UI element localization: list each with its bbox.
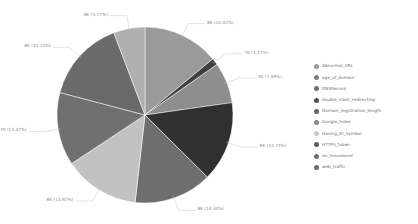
legend-item[interactable]: Google_Index (314, 117, 418, 128)
legend-item[interactable]: Domain_registration_length (314, 106, 418, 117)
leader-line (213, 54, 242, 63)
legend-item-label: Having_At_Symbol (322, 132, 362, 136)
legend-item[interactable]: on_mouseover (314, 151, 418, 162)
chart-legend: Abnormal_URLage_of_domainDNSRecorddouble… (314, 61, 418, 173)
legend-item-label: age_of_domain (322, 76, 354, 80)
legend-item[interactable]: double_slash_redirecting (314, 95, 418, 106)
legend-item-label: Domain_registration_length (322, 109, 381, 113)
legend-marker-icon (314, 131, 319, 136)
legend-item-label: on_mouseover (322, 154, 353, 158)
slice-value-label: 8K (15.15%) (0, 44, 51, 48)
pie-svg (0, 0, 310, 224)
legend-item-label: DNSRecord (322, 87, 346, 91)
slice-value-label: 7K (13.42%) (0, 128, 26, 132)
legend-item-label: web_traffic (322, 165, 346, 169)
legend-marker-icon (314, 142, 319, 147)
leader-line (226, 142, 258, 147)
legend-item[interactable]: Abnormal_URL (314, 61, 418, 72)
pie-chart: 8K (14.02%)7K (1.27%)4K (7.49%)8K (14.74… (0, 0, 418, 224)
legend-marker-icon (314, 64, 319, 69)
legend-item[interactable]: HTTPS_token (314, 139, 418, 150)
legend-item-label: Abnormal_URL (322, 64, 353, 68)
leader-line (181, 24, 205, 38)
legend-marker-icon (314, 75, 319, 80)
slice-value-label: 7K (1.27%) (244, 51, 268, 55)
legend-item[interactable]: DNSRecord (314, 83, 418, 94)
leader-line (75, 188, 100, 201)
legend-item[interactable]: age_of_domain (314, 72, 418, 83)
legend-marker-icon (314, 86, 319, 91)
slice-value-label: 8K (5.77%) (0, 13, 108, 17)
leader-line (224, 78, 256, 84)
slice-value-label: 4K (7.49%) (258, 75, 282, 79)
leader-line (53, 47, 82, 57)
legend-item-label: double_slash_redirecting (322, 98, 375, 102)
legend-item[interactable]: Having_At_Symbol (314, 128, 418, 139)
leader-line (173, 196, 195, 211)
legend-marker-icon (314, 120, 319, 125)
slice-value-label: 8K (14.74%) (260, 144, 287, 148)
pie-slice-group (57, 27, 233, 203)
legend-marker-icon (314, 109, 319, 114)
slice-value-label: 8K (14.02%) (207, 21, 234, 25)
legend-marker-icon (314, 98, 319, 103)
legend-marker-icon (314, 154, 319, 159)
pie-plot-area: 8K (14.02%)7K (1.27%)4K (7.49%)8K (14.74… (0, 0, 310, 224)
slice-value-label: 8K (14.34%) (197, 207, 224, 211)
slice-value-label: 8K (13.92%) (0, 198, 73, 202)
legend-item[interactable]: web_traffic (314, 162, 418, 173)
legend-item-label: HTTPS_token (322, 143, 350, 147)
legend-marker-icon (314, 165, 319, 170)
legend-item-label: Google_Index (322, 120, 351, 124)
leader-line (28, 129, 60, 132)
